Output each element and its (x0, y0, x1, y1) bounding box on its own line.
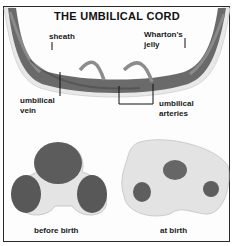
label-umbilical-arteries-line1: umbilical (159, 99, 194, 108)
cross-section-before-birth (11, 142, 107, 215)
label-umbilical-arteries-line2: arteries (159, 109, 188, 118)
label-umbilical-vein-line2: vein (20, 106, 36, 115)
diagram-title: THE UMBILICAL CORD (0, 10, 234, 22)
label-umbilical-vein-line1: umbilical (20, 96, 55, 105)
label-whartons-jelly-line2: jelly (144, 40, 160, 49)
label-whartons-jelly-line1: Wharton's (144, 30, 183, 39)
umbilical-cord-illustration (0, 0, 234, 246)
label-sheath: sheath (49, 32, 75, 41)
label-before-birth: before birth (34, 226, 78, 235)
label-at-birth: at birth (160, 226, 187, 235)
cross-section-at-birth (122, 140, 229, 216)
